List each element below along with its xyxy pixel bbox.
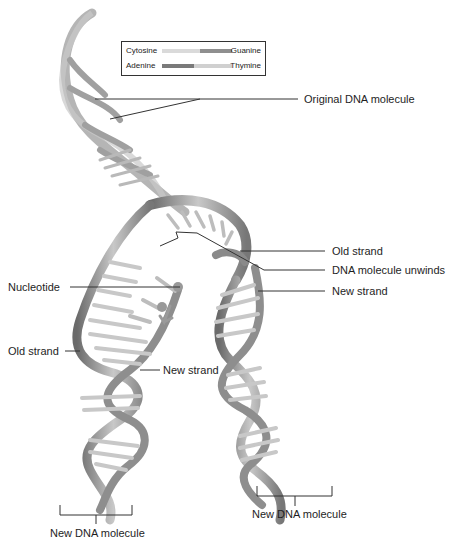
label-new-dna-molecule-left: New DNA molecule (50, 527, 145, 540)
legend-label-thymine: Thymine (230, 61, 261, 70)
label-new-dna-molecule-right: New DNA molecule (252, 508, 347, 521)
label-old-strand-right: Old strand (332, 245, 383, 258)
thymine-swatch (194, 64, 232, 68)
right-new-dna-helix (216, 268, 281, 520)
label-original-dna-molecule: Original DNA molecule (304, 93, 415, 106)
cytosine-swatch (162, 49, 200, 53)
left-new-dna-helix (77, 205, 178, 520)
label-dna-molecule-unwinds: DNA molecule unwinds (332, 264, 445, 277)
leader-lines (60, 99, 332, 524)
legend-row-adenine-thymine: Adenine Thymine (122, 59, 265, 73)
label-new-strand-center: New strand (163, 364, 219, 377)
replication-fork (150, 200, 246, 280)
legend-label-cytosine: Cytosine (126, 46, 157, 55)
label-new-strand-right: New strand (332, 285, 388, 298)
adenine-swatch (162, 64, 194, 68)
legend-row-cytosine-guanine: Cytosine Guanine (122, 44, 265, 58)
legend-label-guanine: Guanine (231, 46, 261, 55)
label-nucleotide: Nucleotide (8, 281, 60, 294)
base-pair-legend: Cytosine Guanine Adenine Thymine (121, 41, 266, 76)
legend-label-adenine: Adenine (126, 61, 155, 70)
dna-replication-diagram: Cytosine Guanine Adenine Thymine Origina… (0, 0, 453, 547)
guanine-swatch (200, 49, 232, 53)
label-old-strand-left: Old strand (8, 345, 59, 358)
